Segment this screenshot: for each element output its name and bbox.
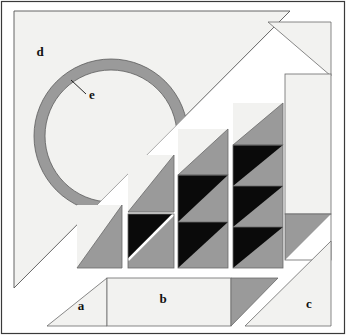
column-4-group [233, 103, 283, 268]
label-d: d [36, 44, 44, 59]
label-a: a [78, 298, 85, 313]
label-b: b [159, 291, 166, 306]
right-vertical-rectangle [285, 74, 331, 214]
region-b-rectangle [107, 278, 231, 326]
label-e: e [89, 87, 95, 102]
dissection-figure: d e a b c [0, 0, 346, 335]
column-3-group [178, 129, 228, 268]
figure-root: d e a b c [0, 0, 346, 335]
column-2-group [128, 155, 174, 268]
label-c: c [306, 296, 312, 311]
